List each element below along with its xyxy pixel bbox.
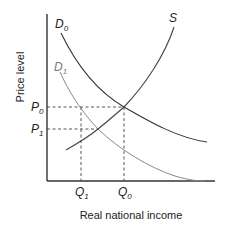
x-axis-title: Real national income bbox=[80, 209, 183, 221]
label-q0: Q0 bbox=[118, 185, 132, 201]
ad-as-chart: D0 D1 S P0 P1 Q1 Q0 Real national income… bbox=[0, 0, 225, 230]
label-d1: D1 bbox=[54, 60, 67, 76]
label-p0: P0 bbox=[31, 100, 44, 116]
label-p1: P1 bbox=[31, 122, 43, 138]
guide-lines bbox=[47, 107, 124, 181]
label-d0: D0 bbox=[55, 17, 69, 33]
y-axis-title: Price level bbox=[14, 52, 26, 103]
demand-curve-d1 bbox=[60, 72, 205, 181]
demand-curve-d0 bbox=[61, 33, 207, 142]
label-s: S bbox=[169, 11, 177, 25]
supply-curve-s bbox=[66, 27, 174, 150]
label-q1: Q1 bbox=[75, 185, 89, 201]
